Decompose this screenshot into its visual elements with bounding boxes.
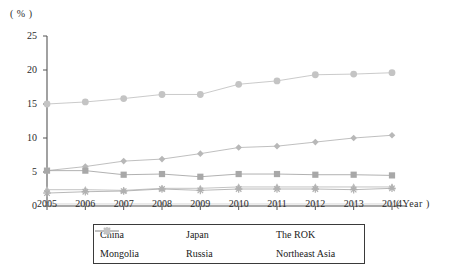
data-point-marker	[104, 228, 111, 235]
data-point-marker	[350, 186, 358, 194]
data-point-marker	[351, 172, 357, 178]
data-point-marker	[389, 172, 395, 178]
data-point-marker	[350, 71, 357, 78]
legend-item-mongolia[interactable]: Mongolia	[94, 244, 184, 263]
series-russia	[43, 185, 396, 197]
data-point-marker	[197, 91, 204, 98]
data-point-marker	[82, 188, 90, 196]
data-point-marker	[235, 144, 242, 151]
x-tick-label: 2012	[297, 198, 333, 209]
data-point-marker	[120, 187, 128, 195]
legend-item-japan[interactable]: Japan	[184, 225, 274, 244]
series-line	[47, 171, 392, 177]
data-point-marker	[274, 77, 281, 84]
legend-label-northeast-asia: Northeast Asia	[276, 248, 335, 259]
data-point-marker	[120, 158, 127, 165]
data-point-marker	[236, 171, 242, 177]
y-tick-label: 25	[15, 30, 37, 41]
legend-label-mongolia: Mongolia	[100, 248, 139, 259]
legend-swatch-northeast-asia	[94, 225, 120, 237]
x-tick-label: 2014	[374, 198, 410, 209]
chart-legend: China Japan The ROK Mongolia Russia Nort…	[93, 224, 365, 264]
legend-item-russia[interactable]: Russia	[184, 244, 274, 263]
legend-item-the-rok[interactable]: The ROK	[274, 225, 364, 244]
y-tick-label: 5	[15, 166, 37, 177]
x-tick-label: 2006	[67, 198, 103, 209]
series-china	[44, 132, 396, 174]
data-point-marker	[312, 139, 319, 146]
data-point-marker	[82, 99, 89, 106]
data-point-marker	[312, 71, 319, 78]
x-tick-label: 2010	[221, 198, 257, 209]
y-tick-label: 10	[15, 132, 37, 143]
x-tick-label: 2008	[144, 198, 180, 209]
data-point-marker	[388, 185, 396, 193]
data-point-marker	[159, 156, 166, 163]
data-point-marker	[312, 185, 320, 193]
data-point-marker	[350, 135, 357, 142]
legend-label-russia: Russia	[186, 248, 213, 259]
x-tick-label: 2005	[29, 198, 65, 209]
x-tick-label: 2013	[336, 198, 372, 209]
x-tick-label: 2011	[259, 198, 295, 209]
series-line	[47, 188, 392, 193]
data-point-marker	[120, 95, 127, 102]
data-point-marker	[273, 185, 281, 193]
data-point-marker	[82, 168, 88, 174]
series-line	[47, 73, 392, 104]
data-point-marker	[389, 69, 396, 76]
data-point-marker	[44, 168, 50, 174]
data-point-marker	[121, 172, 127, 178]
data-point-marker	[235, 185, 243, 193]
chart-container: ( % ) ( Year ) China Japan The ROK Mongo…	[0, 0, 452, 270]
x-tick-label: 2007	[106, 198, 142, 209]
series-northeast-asia	[44, 69, 396, 107]
data-point-marker	[197, 187, 205, 195]
data-point-marker	[44, 101, 51, 108]
x-tick-label: 2009	[182, 198, 218, 209]
data-point-marker	[235, 81, 242, 88]
legend-label-the-rok: The ROK	[276, 229, 315, 240]
legend-item-northeast-asia[interactable]: Northeast Asia	[274, 244, 364, 263]
y-tick-label: 15	[15, 98, 37, 109]
data-point-marker	[159, 171, 165, 177]
legend-label-japan: Japan	[186, 229, 209, 240]
series-japan	[44, 168, 395, 180]
data-point-marker	[43, 189, 51, 197]
data-point-marker	[389, 132, 396, 139]
y-tick-label: 20	[15, 64, 37, 75]
data-point-marker	[158, 185, 166, 193]
data-point-marker	[274, 143, 281, 150]
data-point-marker	[197, 150, 204, 157]
data-point-marker	[197, 174, 203, 180]
data-point-marker	[159, 91, 166, 98]
data-point-marker	[274, 171, 280, 177]
data-point-marker	[312, 172, 318, 178]
series-line	[47, 135, 392, 170]
